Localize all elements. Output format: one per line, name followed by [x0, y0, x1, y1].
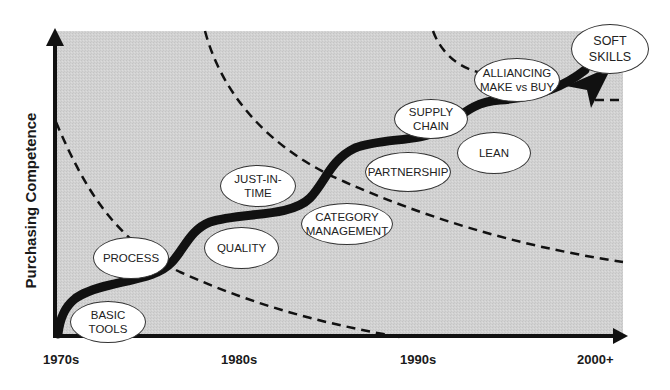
- x-tick-1990s: 1990s: [400, 352, 436, 367]
- x-tick-2000plus: 2000+: [577, 352, 614, 367]
- stage-process: PROCESS: [93, 237, 169, 279]
- x-tick-1970s: 1970s: [43, 352, 79, 367]
- y-axis-title: Purchasing Competence: [3, 100, 59, 300]
- stage-lean: LEAN: [457, 132, 531, 174]
- stage-basic-tools: BASICTOOLS: [70, 301, 146, 343]
- stage-just-in-time: JUST-IN-TIME: [220, 165, 296, 207]
- stage-soft-skills: SOFTSKILLS: [571, 24, 649, 74]
- stage-alliancing-make-vs-buy: ALLIANCINGMAKE vs BUY: [474, 58, 560, 102]
- purchasing-evolution-diagram: Purchasing Competence 1970s 1980s 1990s …: [0, 0, 670, 390]
- stage-quality: QUALITY: [204, 227, 279, 269]
- stage-supply-chain: SUPPLYCHAIN: [394, 99, 468, 139]
- x-tick-1980s: 1980s: [221, 352, 257, 367]
- stage-partnership: PARTNERSHIP: [365, 152, 451, 192]
- stage-category-management: CATEGORYMANAGEMENT: [301, 203, 393, 245]
